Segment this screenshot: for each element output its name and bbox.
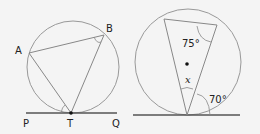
angle-mark-b — [94, 37, 101, 42]
label-b: B — [106, 23, 113, 34]
label-70: 70° — [209, 94, 227, 105]
chord-bt — [71, 35, 104, 113]
label-q: Q — [112, 118, 120, 129]
chord-at — [29, 53, 71, 113]
chord-ab — [29, 35, 104, 53]
chord-top — [164, 19, 217, 25]
label-t: T — [66, 118, 74, 129]
label-x: x — [185, 74, 191, 85]
label-a: A — [15, 45, 22, 56]
geometry-diagram: A B P T Q 75° x 70° — [0, 0, 260, 134]
figure-left: A B P T Q — [15, 21, 120, 129]
angle-arc-x — [181, 88, 193, 90]
point-t-dot — [69, 111, 73, 115]
center-dot — [185, 62, 189, 66]
diagram-canvas: A B P T Q 75° x 70° — [0, 0, 260, 134]
chord-left — [164, 19, 187, 115]
label-p: P — [23, 118, 29, 129]
label-75: 75° — [182, 38, 200, 49]
figure-right: 75° x 70° — [133, 9, 241, 115]
circle-left — [27, 21, 119, 113]
